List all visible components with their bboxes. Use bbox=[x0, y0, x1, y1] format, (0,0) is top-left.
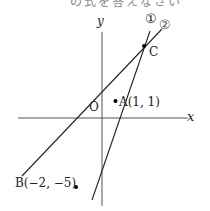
line-1 bbox=[92, 31, 150, 200]
line-1-label: ① bbox=[145, 11, 157, 26]
point-a bbox=[114, 99, 118, 103]
point-a-label: A(1, 1) bbox=[119, 95, 160, 109]
x-axis-label: x bbox=[187, 109, 194, 124]
origin-label: O bbox=[89, 100, 99, 114]
line-2-label: ② bbox=[159, 17, 171, 32]
point-c bbox=[142, 44, 146, 48]
point-b-label: B(−2, −5) bbox=[15, 176, 76, 190]
point-c-label: C bbox=[149, 45, 158, 59]
y-axis-label: y bbox=[97, 14, 104, 28]
